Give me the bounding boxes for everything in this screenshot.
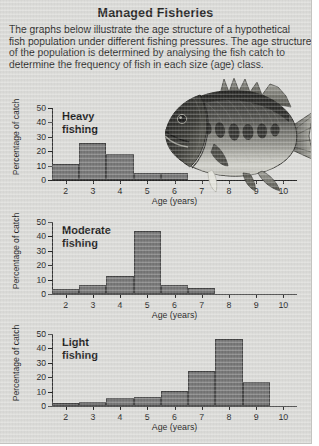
x-tick-label: 8 xyxy=(221,412,237,422)
x-tick-label: 5 xyxy=(139,300,155,310)
y-tick xyxy=(48,151,53,152)
y-axis-label: Percentage of catch xyxy=(11,321,21,405)
histogram-bar xyxy=(215,339,242,406)
x-tick-label: 3 xyxy=(85,412,101,422)
caption-line-2: fishing xyxy=(62,237,111,250)
histogram-bar xyxy=(188,288,215,294)
x-tick-label: 2 xyxy=(58,412,74,422)
x-tick xyxy=(120,406,121,410)
y-tick-label: 20 xyxy=(27,147,46,155)
chart-light-fishing: Percentage of catch Light fishing 010203… xyxy=(0,330,311,443)
chart-caption: Light fishing xyxy=(62,336,98,361)
y-tick xyxy=(48,251,53,252)
intro-line-3: of the population is determined by analy… xyxy=(9,47,305,59)
x-tick-label: 9 xyxy=(248,300,264,310)
histogram-bar xyxy=(161,391,188,406)
y-tick-label: 30 xyxy=(27,359,46,367)
x-axis-label: Age (years) xyxy=(52,196,297,206)
x-tick-label: 5 xyxy=(139,412,155,422)
x-tick xyxy=(283,294,284,298)
histogram-bar xyxy=(243,382,270,406)
second-anal-fin xyxy=(258,171,280,191)
histogram-bar xyxy=(79,143,106,180)
page-sheet: Managed Fisheries The graphs below illus… xyxy=(0,0,312,444)
y-tick xyxy=(48,137,53,138)
anal-fin xyxy=(243,173,255,191)
y-tick xyxy=(48,180,53,181)
caption-line-1: Moderate xyxy=(62,224,111,237)
histogram-bar xyxy=(79,285,106,294)
page-title: Managed Fisheries xyxy=(0,6,311,20)
y-axis-label: Percentage of catch xyxy=(11,209,21,293)
chart-moderate-fishing: Percentage of catch Moderate fishing 010… xyxy=(0,218,311,330)
x-axis-label: Age (years) xyxy=(52,310,297,320)
x-tick xyxy=(147,294,148,298)
x-tick xyxy=(256,406,257,410)
y-tick-label: 50 xyxy=(27,104,46,112)
intro-line-4: determine the frequency of fish in each … xyxy=(9,59,305,71)
caption-line-1: Heavy xyxy=(62,110,98,123)
y-tick-label: 20 xyxy=(27,261,46,269)
fish-illustration xyxy=(158,74,312,196)
x-tick xyxy=(93,406,94,410)
caption-line-1: Light xyxy=(62,336,98,349)
x-tick xyxy=(256,294,257,298)
histogram-bar xyxy=(134,173,161,180)
intro-paragraph: The graphs below illustrate the age stru… xyxy=(9,24,305,70)
x-tick-label: 3 xyxy=(85,300,101,310)
x-tick-label: 5 xyxy=(139,186,155,196)
intro-line-2: fish population under different fishing … xyxy=(9,36,305,48)
x-tick xyxy=(202,294,203,298)
histogram-bar xyxy=(134,397,161,406)
x-tick xyxy=(229,294,230,298)
histogram-bar xyxy=(52,289,79,294)
x-tick-label: 4 xyxy=(112,300,128,310)
x-tick-label: 10 xyxy=(275,300,291,310)
histogram-bar xyxy=(79,402,106,406)
y-tick-label: 0 xyxy=(27,290,46,298)
histogram-bar xyxy=(161,285,188,294)
y-tick xyxy=(48,406,53,407)
x-tick-label: 10 xyxy=(275,412,291,422)
y-tick xyxy=(48,265,53,266)
y-tick xyxy=(48,377,53,378)
x-tick-label: 9 xyxy=(248,412,264,422)
y-tick xyxy=(48,122,53,123)
x-tick xyxy=(283,406,284,410)
histogram-bar xyxy=(52,164,79,180)
chart-caption: Moderate fishing xyxy=(62,224,111,249)
fish-photograph xyxy=(158,74,312,196)
y-tick-label: 20 xyxy=(27,373,46,381)
caption-line-2: fishing xyxy=(62,349,98,362)
x-tick-label: 4 xyxy=(112,186,128,196)
x-tick-label: 6 xyxy=(167,300,183,310)
histogram-bar xyxy=(106,154,133,180)
x-tick xyxy=(202,406,203,410)
histogram-bar xyxy=(188,371,215,406)
x-tick xyxy=(120,294,121,298)
intro-line-1: The graphs below illustrate the age stru… xyxy=(9,24,305,36)
y-tick xyxy=(48,294,53,295)
y-tick xyxy=(48,236,53,237)
y-tick xyxy=(48,363,53,364)
x-tick-label: 3 xyxy=(85,186,101,196)
x-tick-label: 8 xyxy=(221,300,237,310)
x-tick-label: 7 xyxy=(194,412,210,422)
x-tick-label: 7 xyxy=(194,300,210,310)
x-tick-label: 2 xyxy=(58,300,74,310)
histogram-bar xyxy=(106,398,133,406)
x-tick xyxy=(147,406,148,410)
x-tick xyxy=(120,180,121,184)
histogram-bar xyxy=(106,276,133,294)
x-tick xyxy=(175,406,176,410)
y-tick-label: 0 xyxy=(27,176,46,184)
chart-caption: Heavy fishing xyxy=(62,110,98,135)
y-tick xyxy=(48,280,53,281)
x-tick-label: 6 xyxy=(167,412,183,422)
y-tick-label: 50 xyxy=(27,218,46,226)
x-tick xyxy=(93,180,94,184)
y-tick-label: 40 xyxy=(27,232,46,240)
y-tick-label: 30 xyxy=(27,247,46,255)
y-tick xyxy=(48,222,53,223)
y-tick-label: 40 xyxy=(27,118,46,126)
